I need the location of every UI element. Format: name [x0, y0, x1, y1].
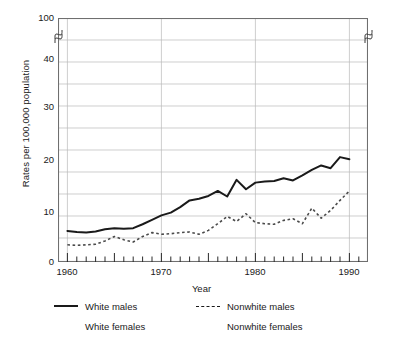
y-tick-label-10: 10 [20, 206, 54, 217]
y-tick-label-100: 100 [20, 12, 54, 23]
legend-item-nonwhite-females: Nonwhite females [196, 316, 303, 336]
legend-row-2: White females Nonwhite females [0, 316, 403, 336]
axis-break-right [362, 26, 375, 44]
vertical-gridlines [67, 18, 349, 262]
series-line-white-males [67, 157, 349, 232]
legend-label-white-females: White females [85, 321, 145, 332]
x-axis-label: Year [0, 283, 403, 294]
no-line-icon [196, 321, 220, 331]
legend-label-nonwhite-males: Nonwhite males [227, 301, 295, 312]
horizontal-gridlines [58, 40, 368, 238]
plot-area [58, 18, 368, 262]
chart-figure: Rates per 100,000 population 100 40 30 2… [0, 0, 403, 341]
y-axis-label: Rates per 100,000 population [20, 14, 31, 234]
y-tick-label-20: 20 [20, 154, 54, 165]
x-minor-ticks [67, 253, 358, 262]
x-tick-label-1970: 1970 [139, 266, 183, 277]
x-tick-label-1960: 1960 [45, 266, 89, 277]
solid-line-icon [54, 301, 78, 311]
legend-label-nonwhite-females: Nonwhite females [227, 321, 303, 332]
no-line-icon [54, 321, 78, 331]
dashed-line-icon [196, 301, 220, 311]
legend-item-nonwhite-males: Nonwhite males [196, 296, 295, 316]
x-tick-label-1990: 1990 [327, 266, 371, 277]
legend-label-white-males: White males [85, 301, 137, 312]
y-tick-label-30: 30 [20, 101, 54, 112]
legend-item-white-females: White females [54, 316, 145, 336]
legend-item-white-males: White males [54, 296, 137, 316]
x-tick-label-1980: 1980 [233, 266, 277, 277]
y-tick-label-40: 40 [20, 53, 54, 64]
axis-break-left [52, 26, 65, 44]
plot-frame [59, 19, 368, 262]
chart-legend: White males Nonwhite males White females… [0, 296, 403, 336]
legend-row-1: White males Nonwhite males [0, 296, 403, 316]
series-line-nonwhite-males [67, 191, 349, 245]
